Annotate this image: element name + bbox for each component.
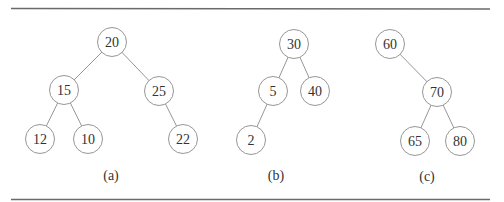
top-rule	[11, 9, 490, 10]
tree-node: 80	[446, 127, 475, 156]
node-label: 65	[408, 134, 422, 149]
node-label: 5	[270, 84, 277, 99]
tree-node: 15	[50, 76, 79, 105]
tree-node: 65	[401, 127, 430, 156]
caption-c: (c)	[419, 169, 435, 185]
node-label: 60	[383, 37, 397, 52]
node-label: 70	[430, 85, 444, 100]
caption-a: (a)	[103, 168, 119, 184]
node-label: 20	[105, 35, 119, 50]
node-label: 30	[287, 37, 301, 52]
node-label: 2	[248, 133, 255, 148]
node-label: 22	[176, 132, 190, 147]
tree-node: 60	[376, 30, 405, 59]
tree-node: 20	[98, 28, 127, 57]
node-label: 12	[33, 132, 47, 147]
tree-node: 70	[423, 78, 452, 107]
node-label: 40	[308, 84, 322, 99]
node-label: 15	[57, 83, 71, 98]
tree-node: 22	[169, 125, 198, 154]
node-label: 80	[453, 134, 467, 149]
node-label: 25	[152, 84, 166, 99]
captions-layer: (a) (b) (c)	[103, 168, 435, 185]
tree-node: 10	[74, 125, 103, 154]
tree-node: 12	[26, 125, 55, 154]
binary-trees-figure: 20152512102230540260706580 (a) (b) (c)	[0, 0, 504, 202]
caption-b: (b)	[268, 168, 285, 184]
tree-node: 30	[280, 30, 309, 59]
tree-node: 40	[301, 77, 330, 106]
nodes-layer: 20152512102230540260706580	[26, 28, 475, 156]
tree-node: 5	[259, 77, 288, 106]
node-label: 10	[81, 132, 95, 147]
tree-node: 25	[145, 77, 174, 106]
tree-node: 2	[237, 126, 266, 155]
